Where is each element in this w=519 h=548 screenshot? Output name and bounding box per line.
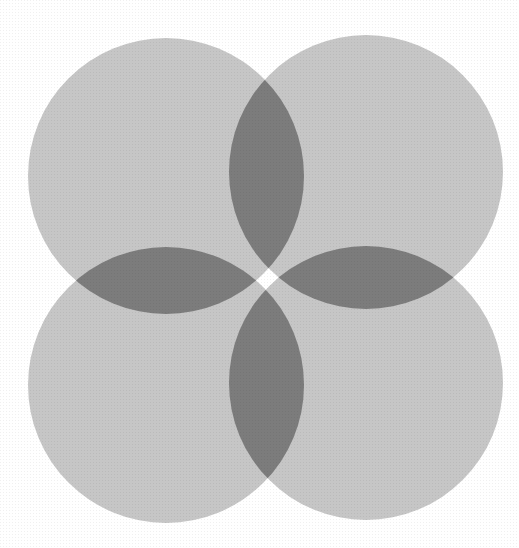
circles-artwork	[0, 0, 519, 548]
figure: Halftone print of four overlapping grey …	[0, 0, 519, 548]
halftone-texture	[0, 0, 519, 548]
